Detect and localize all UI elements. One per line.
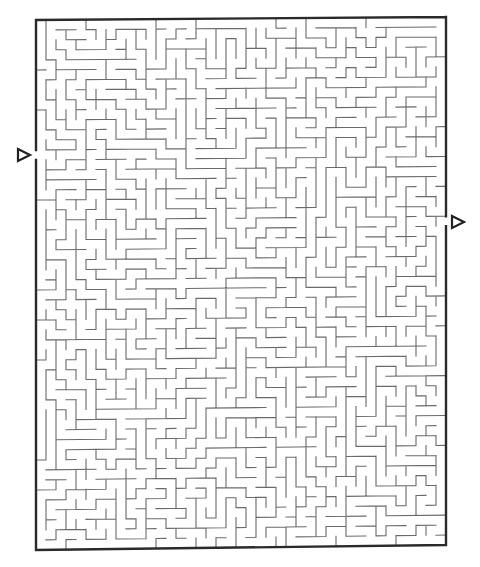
maze-border xyxy=(36,17,446,550)
exit-arrow-icon xyxy=(452,216,464,228)
maze-outer-border xyxy=(36,17,446,550)
maze-wall-segments xyxy=(36,18,446,550)
maze-walls xyxy=(36,18,446,550)
maze-board xyxy=(0,0,480,567)
entrance-arrow-icon xyxy=(18,149,30,161)
